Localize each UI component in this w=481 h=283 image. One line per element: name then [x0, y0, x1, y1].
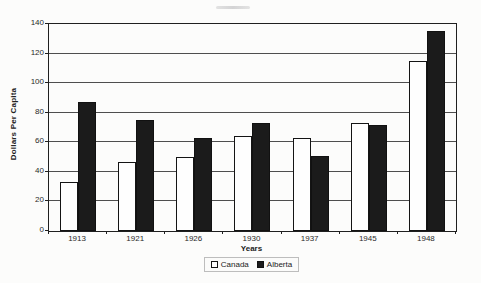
bar-canada-1921	[118, 162, 136, 231]
bar-group-1913	[49, 24, 107, 231]
bar-alberta-1913	[78, 102, 96, 231]
x-axis-title: Years	[48, 244, 455, 253]
legend-entry-alberta: Alberta	[257, 260, 292, 269]
bar-group-1945	[340, 24, 398, 231]
y-tick-label-60: 60	[0, 137, 44, 145]
y-axis-labels: 020406080100120140	[0, 23, 44, 230]
bar-alberta-1930	[252, 123, 270, 231]
x-tick-label-1930: 1930	[222, 234, 280, 244]
bar-alberta-1945	[369, 125, 387, 231]
bar-chart: Dollars Per Capita 020406080100120140 19…	[0, 0, 481, 283]
y-tick-label-0: 0	[0, 226, 44, 234]
bar-canada-1913	[60, 182, 78, 231]
x-tick-label-1913: 1913	[48, 234, 106, 244]
y-tick-label-120: 120	[0, 49, 44, 57]
scan-smudge-artifact	[216, 6, 250, 9]
legend-swatch-alberta	[257, 261, 264, 268]
x-tick-label-1945: 1945	[339, 234, 397, 244]
bar-alberta-1921	[136, 120, 154, 231]
legend-swatch-canada	[211, 261, 218, 268]
bar-canada-1945	[351, 123, 369, 231]
bar-group-1937	[282, 24, 340, 231]
legend-label-alberta: Alberta	[267, 260, 292, 269]
x-tick-label-1921: 1921	[106, 234, 164, 244]
y-tick-label-100: 100	[0, 78, 44, 86]
y-tick-label-40: 40	[0, 167, 44, 175]
x-tick-label-1948: 1948	[397, 234, 455, 244]
bar-alberta-1948	[427, 31, 445, 231]
legend-box: CanadaAlberta	[204, 257, 299, 272]
bar-group-1948	[398, 24, 456, 231]
x-tick-label-1926: 1926	[164, 234, 222, 244]
bar-group-1921	[107, 24, 165, 231]
bar-canada-1937	[293, 138, 311, 231]
plot-area	[48, 23, 457, 232]
bar-canada-1948	[409, 61, 427, 231]
x-tick-mark-7	[455, 231, 456, 234]
x-tick-label-1937: 1937	[281, 234, 339, 244]
bar-groups	[49, 24, 456, 231]
y-tick-label-80: 80	[0, 108, 44, 116]
y-tick-label-140: 140	[0, 19, 44, 27]
bar-canada-1930	[234, 136, 252, 231]
y-tick-label-20: 20	[0, 196, 44, 204]
bar-alberta-1926	[194, 138, 212, 231]
bar-canada-1926	[176, 157, 194, 231]
legend-label-canada: Canada	[221, 260, 249, 269]
legend: CanadaAlberta	[0, 257, 481, 272]
bar-alberta-1937	[311, 156, 329, 231]
legend-entry-canada: Canada	[211, 260, 249, 269]
x-axis-labels: 1913192119261930193719451948	[48, 234, 455, 244]
bar-group-1930	[223, 24, 281, 231]
bar-group-1926	[165, 24, 223, 231]
